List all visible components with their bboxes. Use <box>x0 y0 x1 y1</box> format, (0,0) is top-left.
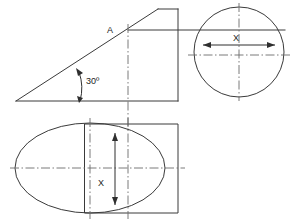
top-view-ellipse: X <box>10 118 185 219</box>
top-view-rectangle <box>85 124 178 213</box>
angle-arrow-lower <box>77 96 83 103</box>
side-view-circle: X <box>188 3 291 101</box>
top-view-dimension-label: X <box>98 178 104 188</box>
side-view-arrow-left <box>203 42 211 48</box>
front-view-inclined-face <box>16 9 158 101</box>
top-view-arrow-bottom <box>112 197 118 205</box>
point-a-label: A <box>107 25 113 35</box>
angle-arrow-upper <box>76 68 83 76</box>
orthographic-drawing: 30º A X <box>0 0 294 223</box>
angle-label: 30º <box>86 76 100 86</box>
front-view: 30º A <box>16 9 285 132</box>
engineering-drawing-canvas: 30º A X <box>0 0 294 223</box>
angle-arc <box>79 72 82 101</box>
top-view-arrow-top <box>112 133 118 141</box>
side-view-dimension-label: X <box>233 33 239 43</box>
side-view-arrow-right <box>267 42 275 48</box>
